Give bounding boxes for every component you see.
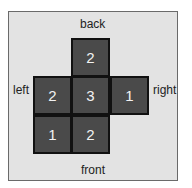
label-right: right xyxy=(153,83,176,97)
cell-front-left: 1 xyxy=(33,115,72,154)
cell-middle-center: 3 xyxy=(71,76,110,115)
label-front: front xyxy=(81,163,105,177)
cell-middle-left: 2 xyxy=(33,76,72,115)
cell-middle-right: 1 xyxy=(110,76,149,115)
cell-front-center: 2 xyxy=(71,115,110,154)
label-left: left xyxy=(13,83,29,97)
cell-back-center: 2 xyxy=(71,38,110,77)
label-back: back xyxy=(80,17,105,31)
